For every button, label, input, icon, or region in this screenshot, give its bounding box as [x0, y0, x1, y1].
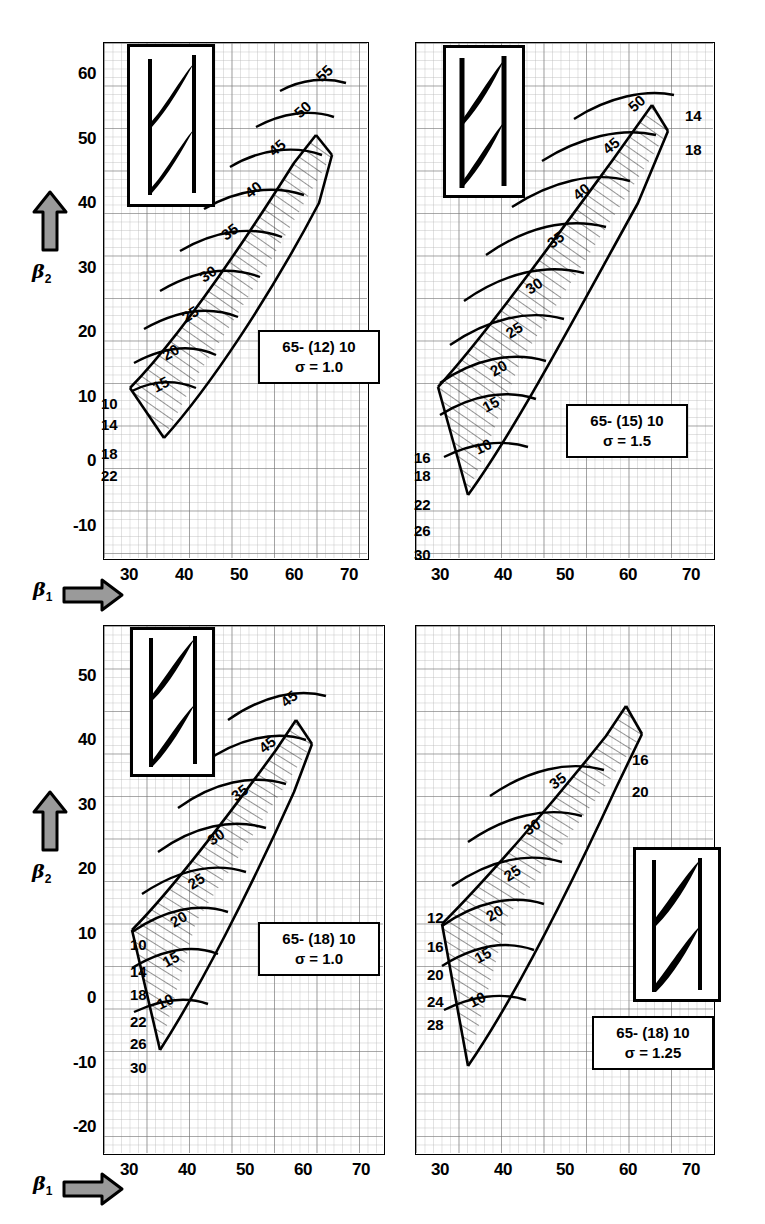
edge-label-bottom-left-3: 22	[130, 1014, 147, 1029]
panel-bottom-left: 10 15 20 25 30 35 45 45 50 40 30 20 10 0…	[0, 612, 390, 1224]
panel-bottom-right: 10 15 20 25 30 35 30 40 50 60 70 12 16 2…	[390, 612, 765, 1224]
edge-label-top-right-3: 26	[414, 523, 431, 538]
edge-label-bottom-right-0: 12	[427, 910, 444, 925]
edge-label-bottom-left-4: 26	[130, 1036, 147, 1051]
y-axis-label-bottom-left: β2	[32, 862, 51, 885]
ytick-bottom-left-0: 50	[48, 667, 96, 684]
edge-label-top-right-1: 18	[414, 468, 431, 483]
ytick-top-left-1: 50	[48, 130, 96, 147]
xtick-top-left-3: 60	[278, 566, 310, 583]
xtick-top-right-4: 70	[675, 566, 707, 583]
legend-top-right: 65- (15) 10 σ = 1.5	[566, 404, 688, 458]
xtick-bottom-right-2: 50	[549, 1161, 581, 1178]
xtick-bottom-right-1: 40	[487, 1161, 519, 1178]
xtick-bottom-right-4: 70	[675, 1161, 707, 1178]
cascade-blade-row-icon	[133, 630, 212, 774]
x-axis-label-bottom-left: β1	[33, 1174, 52, 1197]
cascade-inset-bottom-left	[130, 627, 215, 777]
legend-bottom-left: 65- (18) 10 σ = 1.0	[258, 922, 380, 976]
end-label-top-right-1: 18	[685, 142, 702, 157]
xtick-bottom-right-3: 60	[612, 1161, 644, 1178]
xtick-top-left-4: 70	[333, 566, 365, 583]
panel-top-left: 15 20 25 30 35 40 45 50 55 60 50 40 30 2…	[0, 0, 390, 612]
xtick-bottom-left-4: 70	[345, 1161, 377, 1178]
legend-series-top-right: 65- (15) 10	[590, 411, 663, 431]
y-axis-subscript: 2	[45, 272, 52, 286]
ytick-top-left-4: 20	[48, 323, 96, 340]
ytick-bottom-left-5: 0	[48, 989, 96, 1006]
legend-bottom-right: 65- (18) 10 σ = 1.25	[592, 1016, 714, 1070]
xtick-top-left-1: 40	[168, 566, 200, 583]
end-label-bottom-right-0: 16	[632, 752, 649, 767]
edge-label-top-left-0: 10	[101, 396, 118, 411]
right-arrow-icon-bottom-left	[62, 1172, 124, 1206]
legend-sigma-bottom-right: σ = 1.25	[625, 1043, 682, 1063]
legend-series-bottom-left: 65- (18) 10	[282, 929, 355, 949]
xtick-bottom-left-3: 60	[287, 1161, 319, 1178]
edge-label-top-left-3: 22	[101, 468, 118, 483]
end-label-bottom-right-1: 20	[632, 784, 649, 799]
legend-series-bottom-right: 65- (18) 10	[616, 1023, 689, 1043]
xtick-bottom-left-2: 50	[229, 1161, 261, 1178]
edge-label-bottom-right-2: 20	[427, 967, 444, 982]
ytick-top-left-6: 0	[48, 452, 96, 469]
xtick-bottom-left-1: 40	[171, 1161, 203, 1178]
edge-label-top-right-2: 22	[414, 497, 431, 512]
edge-label-bottom-right-4: 28	[427, 1017, 444, 1032]
ytick-bottom-left-1: 40	[48, 731, 96, 748]
x-axis-subscript: 1	[46, 1184, 53, 1198]
legend-sigma-top-right: σ = 1.5	[603, 431, 651, 451]
edge-label-bottom-left-0: 10	[130, 937, 147, 952]
xtick-top-right-1: 40	[487, 566, 519, 583]
ytick-top-left-3: 30	[48, 259, 96, 276]
up-arrow-icon-bottom-left	[32, 790, 68, 852]
edge-label-bottom-left-1: 14	[130, 964, 147, 979]
ytick-bottom-left-7: -20	[40, 1118, 96, 1135]
end-label-top-right-0: 14	[685, 108, 702, 123]
legend-series-top-left: 65- (12) 10	[282, 337, 355, 357]
legend-top-left: 65- (12) 10 σ = 1.0	[258, 330, 380, 384]
cascade-blade-row-icon	[446, 48, 522, 195]
cascade-inset-bottom-right	[633, 847, 721, 1002]
y-axis-subscript: 2	[45, 872, 52, 886]
x-axis-symbol: β	[33, 578, 46, 600]
right-arrow-icon-top-left	[62, 578, 124, 612]
xtick-top-right-2: 50	[549, 566, 581, 583]
edge-label-top-right-0: 16	[414, 450, 431, 465]
legend-sigma-bottom-left: σ = 1.0	[295, 949, 343, 969]
edge-label-bottom-left-5: 30	[130, 1060, 147, 1075]
cascade-inset-top-right	[443, 45, 525, 198]
edge-label-bottom-right-3: 24	[427, 994, 444, 1009]
ytick-top-left-0: 60	[48, 65, 96, 82]
cascade-inset-top-left	[127, 44, 215, 207]
xtick-top-right-0: 30	[424, 566, 456, 583]
ytick-top-left-7: -10	[40, 517, 96, 534]
x-axis-label-top-left: β1	[33, 580, 52, 603]
xtick-bottom-right-0: 30	[424, 1161, 456, 1178]
y-axis-label-top-left: β2	[32, 262, 51, 285]
edge-label-top-right-4: 30	[414, 547, 431, 562]
y-axis-symbol: β	[32, 860, 45, 882]
panel-top-right: 10 15 20 25 30 35 40 45 50 30 40 50 60 7…	[390, 0, 765, 612]
up-arrow-icon-top-left	[32, 190, 68, 252]
cascade-blade-row-icon	[636, 850, 718, 999]
x-axis-symbol: β	[33, 1172, 46, 1194]
edge-label-bottom-right-1: 16	[427, 939, 444, 954]
xtick-top-right-3: 60	[612, 566, 644, 583]
legend-sigma-top-left: σ = 1.0	[295, 357, 343, 377]
ytick-bottom-left-4: 10	[48, 925, 96, 942]
xtick-top-left-2: 50	[223, 566, 255, 583]
y-axis-symbol: β	[32, 260, 45, 282]
ytick-top-left-5: 10	[48, 388, 96, 405]
cascade-blade-row-icon	[130, 47, 212, 204]
ytick-bottom-left-3: 20	[48, 860, 96, 877]
x-axis-subscript: 1	[46, 590, 53, 604]
edge-label-bottom-left-2: 18	[130, 987, 147, 1002]
ytick-bottom-left-6: -10	[40, 1054, 96, 1071]
edge-label-top-left-2: 18	[101, 446, 118, 461]
edge-label-top-left-1: 14	[101, 417, 118, 432]
